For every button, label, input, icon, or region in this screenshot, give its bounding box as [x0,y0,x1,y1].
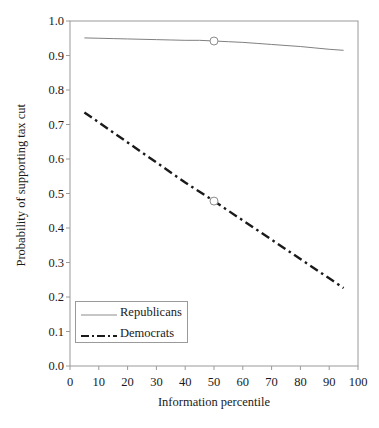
chart-figure: Probability of supporting tax cut 0.00.1… [0,0,379,428]
legend-label-republicans: Republicans [120,306,182,319]
x-tick-label: 70 [265,376,278,389]
x-tick-label: 90 [323,376,336,389]
y-tick-label: 0.7 [32,118,64,131]
y-tick-label: 0.9 [32,49,64,62]
chart-legend: Republicans Democrats [75,301,188,343]
x-axis-title: Information percentile [70,396,358,409]
y-tick-label: 0.0 [32,360,64,373]
data-series-layer [84,38,343,288]
data-point-markers [210,37,218,205]
y-axis-tick-marks [66,21,70,366]
y-tick-label: 0.1 [32,325,64,338]
y-tick-label: 0.8 [32,84,64,97]
y-tick-label: 0.3 [32,256,64,269]
x-tick-label: 60 [237,376,250,389]
data-marker-republicans [210,37,218,45]
y-axis-title-wrapper: Probability of supporting tax cut [8,0,34,370]
legend-label-democrats: Democrats [120,327,174,340]
legend-swatch-solid-line [80,307,118,319]
y-tick-label: 0.4 [32,222,64,235]
data-marker-democrats [210,197,218,205]
x-axis-tick-marks [70,366,358,370]
legend-item-democrats: Democrats [76,323,189,344]
x-tick-label: 30 [150,376,163,389]
y-tick-label: 0.6 [32,153,64,166]
legend-swatch-dashdot-line [80,328,118,340]
x-tick-label: 100 [349,376,368,389]
x-tick-label: 10 [93,376,106,389]
x-tick-label: 80 [294,376,307,389]
x-tick-label: 40 [179,376,192,389]
y-tick-label: 0.2 [32,291,64,304]
y-tick-label: 1.0 [32,15,64,28]
x-tick-label: 50 [208,376,221,389]
x-tick-label: 0 [67,376,73,389]
legend-item-republicans: Republicans [76,302,189,323]
y-tick-label: 0.5 [32,187,64,200]
y-axis-title: Probability of supporting tax cut [15,104,28,266]
x-tick-label: 20 [121,376,134,389]
